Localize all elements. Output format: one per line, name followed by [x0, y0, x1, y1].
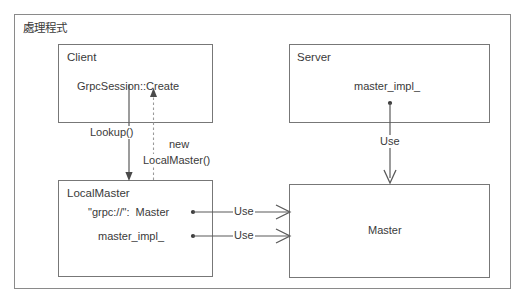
- box-localmaster-member-grpc-master: "grpc://": Master: [88, 206, 169, 219]
- box-localmaster-member-master-impl: master_impl_: [98, 230, 164, 243]
- edge-label-new: new: [168, 138, 190, 151]
- box-localmaster-name: LocalMaster: [67, 187, 130, 200]
- edge-label-server-use: Use: [379, 135, 401, 148]
- package-title: 處理程式: [23, 22, 67, 35]
- box-server-member-master-impl: master_impl_: [354, 80, 420, 93]
- edge-lookup-arrowhead: [125, 172, 132, 181]
- box-client-name: Client: [67, 51, 96, 64]
- edge-label-lm-use-1: Use: [233, 205, 255, 218]
- box-server-name: Server: [297, 51, 331, 64]
- edge-label-lookup: Lookup(): [89, 126, 134, 139]
- box-master-label: Master: [368, 224, 402, 237]
- edge-label-new-localmaster: LocalMaster(): [142, 154, 211, 167]
- edge-label-lm-use-2: Use: [233, 229, 255, 242]
- diagram-vector-layer: [0, 0, 522, 304]
- box-client-member-grpcsession-create: GrpcSession::Create: [77, 80, 179, 93]
- diagram-canvas: 處理程式 Client GrpcSession::Create Server m…: [0, 0, 522, 304]
